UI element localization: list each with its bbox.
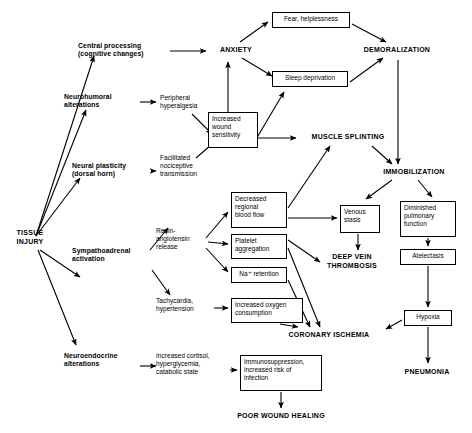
node-fear_helplessness: Fear, helplessness	[272, 12, 350, 28]
edge-muscle_splinting-to-immobilization	[372, 146, 392, 164]
node-venous_stasis: Venous stasis	[340, 205, 380, 233]
node-muscle_splinting: MUSCLE SPLINTING	[300, 133, 396, 142]
edge-anxiety-to-sleep_deprivation	[242, 58, 272, 76]
node-deep_vein_thrombosis: DEEP VEIN THROMBOSIS	[318, 253, 386, 270]
node-na_retention: Na⁺ retention	[231, 267, 287, 283]
edge-renin-to-platelet_agg	[208, 242, 228, 244]
edge-increased_oxygen-to-coronary_ischemia	[280, 324, 298, 327]
edge-sleep_deprivation-to-demoralization	[350, 58, 383, 82]
node-increased_cortisol: Increased cortisol, hyperglycemia, catab…	[156, 352, 228, 376]
flowchart-canvas: TISSUE INJURYCentral processing (cogniti…	[0, 0, 472, 433]
edge-immobilization-to-diminished_pulm	[418, 180, 432, 197]
node-increased_wound: Increased wound sensitivity	[208, 112, 258, 148]
edge-sympathoadrenal-to-tachycardia	[152, 270, 170, 295]
node-sleep_deprivation: Sleep deprivation	[272, 71, 348, 87]
node-neural_plasticity: Neural plasticity (dorsal horn)	[72, 162, 148, 178]
node-coronary_ischemia: CORONARY ISCHEMIA	[275, 331, 383, 340]
edge-decreased_flow-to-muscle_splinting	[288, 146, 330, 208]
node-tissue_injury: TISSUE INJURY	[8, 229, 52, 246]
edge-fear_helplessness-to-demoralization	[352, 24, 386, 42]
node-pneumonia: PNEUMONIA	[392, 368, 462, 377]
node-sympathoadrenal: Sympathoadrenal activation	[72, 247, 156, 263]
node-hypoxia: Hypoxia	[404, 310, 452, 326]
node-central_processing: Central processing (cognitive changes)	[78, 42, 164, 58]
node-peripheral_hyper: Peripheral hyperalgesia	[160, 94, 214, 110]
edge-renin-to-na_retention	[206, 248, 228, 272]
node-neurohumoral: Neurohumoral alterations	[64, 93, 136, 109]
node-anxiety: ANXIETY	[210, 46, 262, 55]
node-poor_wound_healing: POOR WOUND HEALING	[222, 412, 340, 421]
edge-hypoxia-to-coronary_ischemia	[386, 320, 402, 329]
node-atelectasis: Atelectasis	[400, 249, 456, 265]
node-decreased_flow: Decreased regional blood flow	[231, 192, 287, 228]
edge-tissue_injury-to-neural_plasticity	[36, 178, 80, 236]
node-demoralization: DEMORALIZATION	[353, 46, 441, 55]
node-increased_oxygen: Increased oxygen consumption	[231, 298, 303, 323]
node-facilitated_noci: Facilitated nociceptive transmission	[160, 154, 216, 178]
edge-immobilization-to-venous_stasis	[366, 180, 392, 199]
edge-anxiety-to-fear_helplessness	[240, 22, 268, 42]
node-tachycardia: Tachycardia, hypertension	[156, 297, 212, 313]
edge-tissue_injury-to-neuroendocrine	[38, 250, 76, 345]
edge-renin-to-decreased_flow	[206, 212, 228, 238]
node-platelet_agg: Platelet aggregation	[231, 234, 287, 259]
node-diminished_pulm: Diminished pulmonary function	[400, 201, 456, 237]
node-renin: Renin- angiotensin release	[156, 227, 206, 251]
node-neuroendocrine: Neuroendocrine alterations	[64, 352, 144, 368]
node-immunosuppression: Immunosuppression, increased risk of inf…	[240, 355, 322, 391]
edge-tissue_injury-to-central_processing	[36, 56, 94, 236]
node-immobilization: IMMOBILIZATION	[370, 168, 458, 177]
